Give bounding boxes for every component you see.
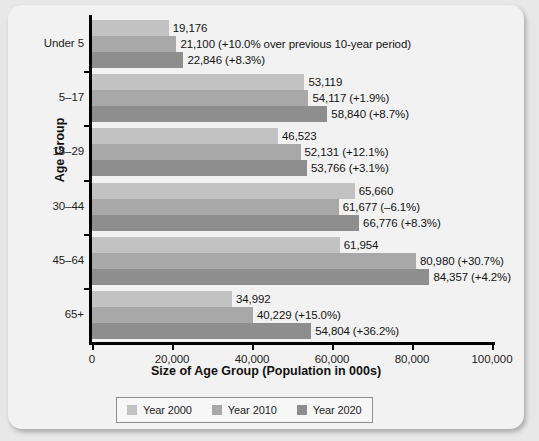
bar-value-label: 54,117 (+1.9%) [308,90,389,106]
plot-area: 19,17621,100 (+10.0% over previous 10-ye… [92,17,492,342]
bar [92,199,339,215]
y-axis-category-label: Under 5 [44,37,84,49]
legend-label: Year 2010 [228,404,277,416]
legend-item: Year 2000 [127,404,192,416]
chart-card: Age Group Under 55–1718–2930–4445–6465+ … [8,5,524,429]
x-axis-tick [332,345,334,350]
legend-label: Year 2000 [143,404,192,416]
bar [92,215,359,231]
y-axis-category-label: 5–17 [59,91,84,103]
bar [92,128,278,144]
bar-value-label: 22,846 (+8.3%) [183,52,265,68]
bar [92,291,232,307]
bar [92,20,169,36]
bar-value-label: 40,229 (+15.0%) [253,307,341,323]
bar-value-label: 21,100 (+10.0% over previous 10-year per… [176,36,411,52]
bar-value-label: 34,992 [232,291,271,307]
bar-group: 61,95480,980 (+30.7%)84,357 (+4.2%) [92,237,492,285]
bar-value-label: 84,357 (+4.2%) [429,269,511,285]
legend-swatch [297,405,307,415]
legend-swatch [127,405,137,415]
x-axis-tick [252,345,254,350]
y-axis-category-label: 65+ [65,308,84,320]
y-axis-tick [84,71,90,73]
bar [92,323,311,339]
bar [92,144,301,160]
bar-value-label: 66,776 (+8.3%) [359,215,441,231]
legend-item: Year 2020 [297,404,362,416]
bar-group: 53,11954,117 (+1.9%)58,840 (+8.7%) [92,74,492,122]
bar [92,307,253,323]
legend-item: Year 2010 [212,404,277,416]
bar-value-label: 52,131 (+12.1%) [301,144,389,160]
chart-legend: Year 2000Year 2010Year 2020 [116,397,373,423]
bar-value-label: 58,840 (+8.7%) [327,106,409,122]
x-axis-tick [492,345,494,350]
x-axis-tick [412,345,414,350]
x-axis-title: Size of Age Group (Population in 000s) [8,364,524,378]
bar [92,36,176,52]
y-axis-category-label: 18–29 [53,145,84,157]
bar [92,74,304,90]
bar-value-label: 53,119 [304,74,342,90]
legend-label: Year 2020 [313,404,362,416]
bar [92,253,416,269]
bar [92,160,307,176]
bar-group: 65,66061,677 (–6.1%)66,776 (+8.3%) [92,183,492,231]
legend-swatch [212,405,222,415]
y-axis-category-labels: Under 55–1718–2930–4445–6465+ [8,17,84,342]
bar-group: 34,99240,229 (+15.0%)54,804 (+36.2%) [92,291,492,339]
y-axis-tick [84,180,90,182]
y-axis-category-label: 45–64 [53,254,84,266]
y-axis-tick [84,234,90,236]
bar-value-label: 80,980 (+30.7%) [416,253,504,269]
bar-value-label: 46,523 [278,128,317,144]
x-axis-tick [92,345,94,350]
bar [92,183,355,199]
bar-value-label: 19,176 [169,20,208,36]
bar-value-label: 61,677 (–6.1%) [339,199,420,215]
bar-value-label: 61,954 [340,237,379,253]
bar [92,269,429,285]
x-axis-tick [172,345,174,350]
bar-value-label: 65,660 [355,183,394,199]
bar [92,106,327,122]
bar [92,52,183,68]
y-axis-tick [84,288,90,290]
bar-value-label: 54,804 (+36.2%) [311,323,399,339]
bar-value-label: 53,766 (+3.1%) [307,160,389,176]
bar-group: 46,52352,131 (+12.1%)53,766 (+3.1%) [92,128,492,176]
bar-group: 19,17621,100 (+10.0% over previous 10-ye… [92,20,492,68]
x-axis-line [89,342,495,345]
y-axis-tick [84,125,90,127]
bar [92,237,340,253]
y-axis-category-label: 30–44 [53,200,84,212]
bar [92,90,308,106]
